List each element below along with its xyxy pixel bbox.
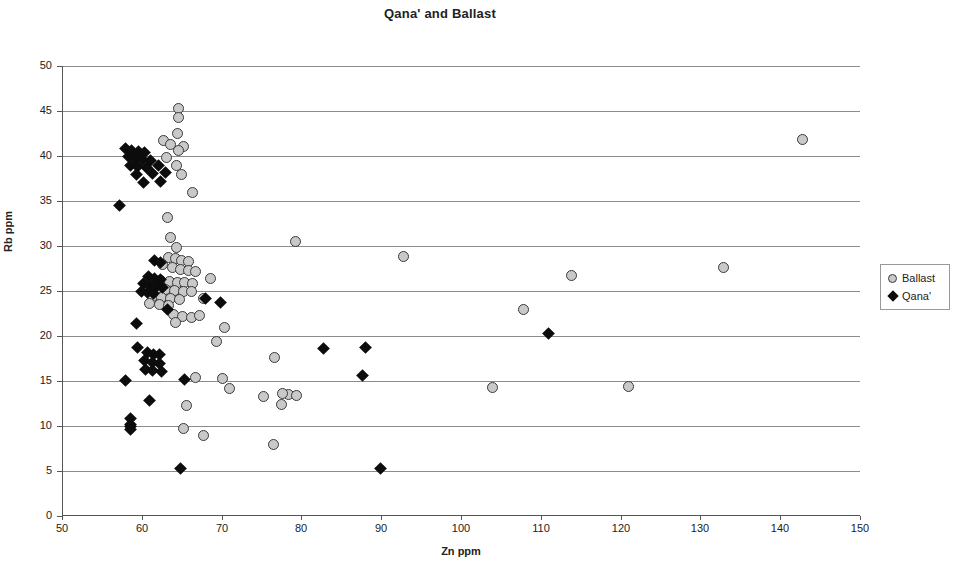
y-tick-mark <box>57 471 62 472</box>
data-point-ballast <box>170 317 181 328</box>
data-point-ballast <box>566 270 577 281</box>
x-tick-label: 60 <box>122 522 162 534</box>
data-point-ballast <box>172 128 183 139</box>
x-tick-label: 70 <box>202 522 242 534</box>
ballast-circle-icon <box>886 274 899 283</box>
data-point-ballast <box>161 152 172 163</box>
y-tick-label: 45 <box>18 104 52 116</box>
data-point-ballast <box>268 439 279 450</box>
x-tick-label: 150 <box>840 522 880 534</box>
x-tick-mark <box>381 516 382 520</box>
data-point-ballast <box>187 187 198 198</box>
data-point-qana <box>359 341 372 354</box>
x-tick-label: 110 <box>521 522 561 534</box>
data-point-ballast <box>186 286 197 297</box>
qana-diamond-icon <box>886 292 899 300</box>
legend-label-qana: Qana' <box>899 290 931 302</box>
data-point-qana <box>317 342 330 355</box>
data-point-ballast <box>217 373 228 384</box>
chart-title: Qana' and Ballast <box>0 6 880 21</box>
x-tick-mark <box>780 516 781 520</box>
scatter-chart: Qana' and Ballast Rb ppm Zn ppm Ballast … <box>0 0 963 570</box>
data-point-ballast <box>291 390 302 401</box>
data-point-ballast <box>181 400 192 411</box>
data-point-ballast <box>198 430 209 441</box>
data-point-qana <box>178 373 191 386</box>
data-point-ballast <box>276 399 287 410</box>
y-tick-label: 50 <box>18 59 52 71</box>
x-tick-mark <box>461 516 462 520</box>
x-tick-label: 130 <box>680 522 720 534</box>
y-tick-label: 40 <box>18 149 52 161</box>
x-tick-label: 50 <box>42 522 82 534</box>
x-tick-label: 80 <box>281 522 321 534</box>
x-tick-label: 140 <box>760 522 800 534</box>
y-tick-mark <box>57 291 62 292</box>
data-point-ballast <box>219 322 230 333</box>
data-point-ballast <box>718 262 729 273</box>
y-tick-label: 5 <box>18 464 52 476</box>
x-tick-mark <box>222 516 223 520</box>
plot-area <box>62 66 860 516</box>
y-tick-label: 0 <box>18 509 52 521</box>
data-point-ballast <box>178 423 189 434</box>
data-point-ballast <box>623 381 634 392</box>
data-point-qana <box>214 296 227 309</box>
gridline <box>62 246 860 247</box>
data-point-ballast <box>277 388 288 399</box>
data-point-ballast <box>173 145 184 156</box>
y-tick-mark <box>57 336 62 337</box>
x-tick-label: 120 <box>601 522 641 534</box>
data-point-qana <box>374 462 387 475</box>
y-tick-label: 15 <box>18 374 52 386</box>
y-tick-mark <box>57 111 62 112</box>
y-tick-label: 25 <box>18 284 52 296</box>
gridline <box>62 201 860 202</box>
data-point-ballast <box>797 134 808 145</box>
data-point-ballast <box>194 310 205 321</box>
data-point-qana <box>130 317 143 330</box>
y-tick-mark <box>57 381 62 382</box>
gridline <box>62 336 860 337</box>
y-tick-mark <box>57 201 62 202</box>
data-point-ballast <box>269 352 280 363</box>
x-tick-mark <box>541 516 542 520</box>
data-point-ballast <box>162 212 173 223</box>
data-point-ballast <box>398 251 409 262</box>
x-tick-mark <box>860 516 861 520</box>
y-tick-label: 20 <box>18 329 52 341</box>
gridline <box>62 66 860 67</box>
data-point-ballast <box>171 242 182 253</box>
y-tick-label: 35 <box>18 194 52 206</box>
data-point-ballast <box>205 273 216 284</box>
chart-legend: Ballast Qana' <box>880 264 950 310</box>
y-axis-label: Rb ppm <box>2 211 14 252</box>
legend-label-ballast: Ballast <box>899 272 935 284</box>
data-point-qana <box>542 327 555 340</box>
x-tick-mark <box>700 516 701 520</box>
x-tick-label: 100 <box>441 522 481 534</box>
data-point-ballast <box>487 382 498 393</box>
data-point-ballast <box>176 169 187 180</box>
y-tick-mark <box>57 426 62 427</box>
legend-item-qana: Qana' <box>886 287 944 305</box>
data-point-ballast <box>518 304 529 315</box>
data-point-qana <box>119 374 132 387</box>
x-tick-mark <box>621 516 622 520</box>
x-axis-label: Zn ppm <box>62 545 860 557</box>
data-point-ballast <box>224 383 235 394</box>
data-point-qana <box>175 462 188 475</box>
x-tick-mark <box>142 516 143 520</box>
data-point-ballast <box>258 391 269 402</box>
y-tick-mark <box>57 66 62 67</box>
x-tick-mark <box>62 516 63 520</box>
y-tick-mark <box>57 246 62 247</box>
data-point-ballast <box>174 294 185 305</box>
y-tick-label: 10 <box>18 419 52 431</box>
y-tick-label: 30 <box>18 239 52 251</box>
data-point-qana <box>143 394 156 407</box>
x-tick-mark <box>301 516 302 520</box>
x-tick-label: 90 <box>361 522 401 534</box>
data-point-ballast <box>173 112 184 123</box>
legend-item-ballast: Ballast <box>886 269 944 287</box>
